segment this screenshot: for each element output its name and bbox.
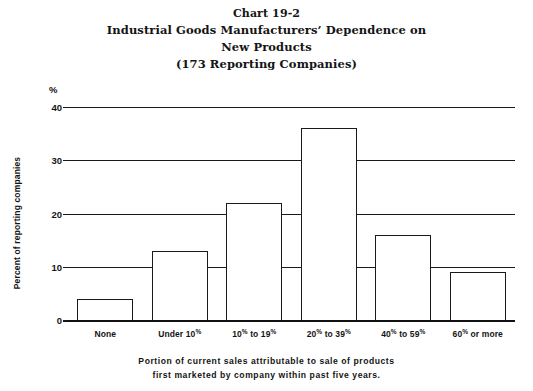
plot-area: 010203040NoneUnder 10%10% to 19%20% to 3… [68, 107, 515, 320]
y-axis-tick-20 [63, 214, 68, 215]
y-axis-tick-40 [63, 107, 68, 108]
y-axis-unit-symbol: % [49, 84, 57, 95]
bar [226, 203, 282, 320]
x-axis-label-6: 60% or more [453, 329, 503, 339]
x-axis-label-4: 20% to 39% [307, 329, 351, 339]
chart-footnote-line-2: first marketed by company within past fi… [0, 368, 533, 382]
y-axis-label-30: 30 [51, 155, 62, 166]
chart-footnote: Portion of current sales attributable to… [0, 354, 533, 382]
chart-title-line-1: Chart 19-2 [0, 5, 533, 22]
y-axis-label-10: 10 [51, 261, 62, 272]
gridline-10 [68, 267, 515, 268]
bar [152, 251, 208, 320]
bar [375, 235, 431, 320]
y-axis-tick-10 [63, 267, 68, 268]
chart-footnote-line-1: Portion of current sales attributable to… [0, 354, 533, 368]
x-axis-baseline [63, 320, 515, 322]
y-axis-label-20: 20 [51, 208, 62, 219]
chart-title-block: Chart 19-2 Industrial Goods Manufacturer… [0, 5, 533, 73]
x-axis-label-1: None [94, 329, 116, 339]
x-axis-label-2: Under 10% [158, 329, 201, 339]
x-axis-label-5: 40% to 59% [381, 329, 425, 339]
bar [301, 128, 357, 320]
gridline-40 [68, 107, 515, 108]
y-axis-label-0: 0 [57, 315, 62, 326]
y-axis-label-40: 40 [51, 102, 62, 113]
y-axis-tick-30 [63, 160, 68, 161]
gridline-20 [68, 214, 515, 215]
bar [77, 299, 133, 320]
chart-title-line-3: New Products [0, 39, 533, 56]
x-axis-label-3: 10% to 19% [232, 329, 276, 339]
bar [450, 272, 506, 320]
y-axis-tick-0 [63, 320, 68, 321]
gridline-30 [68, 160, 515, 161]
chart-title-line-4: (173 Reporting Companies) [0, 56, 533, 73]
chart-figure: Chart 19-2 Industrial Goods Manufacturer… [0, 0, 533, 391]
chart-title-line-2: Industrial Goods Manufacturers’ Dependen… [0, 22, 533, 39]
y-axis-title: Percent of reporting companies [12, 143, 22, 303]
